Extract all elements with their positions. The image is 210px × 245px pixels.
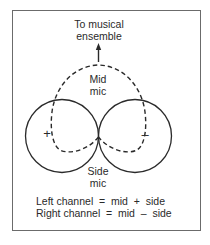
ensemble-label-line1: To musical bbox=[66, 18, 132, 30]
mid-mic-label: Mid mic bbox=[78, 73, 118, 97]
mid-mic-label-line2: mic bbox=[78, 85, 118, 97]
plus-sign: + bbox=[40, 128, 54, 140]
ensemble-label-line2: ensemble bbox=[66, 30, 132, 42]
mid-mic-label-line1: Mid bbox=[78, 73, 118, 85]
arrow-up-icon bbox=[96, 43, 101, 62]
side-mic-label-line2: mic bbox=[78, 177, 118, 189]
side-mic-label: Side mic bbox=[78, 165, 118, 189]
left-channel-equation: Left channel = mid + side bbox=[36, 195, 165, 207]
right-channel-equation: Right channel = mid – side bbox=[36, 207, 172, 219]
ensemble-label: To musical ensemble bbox=[66, 18, 132, 42]
minus-sign: – bbox=[138, 129, 152, 141]
side-mic-label-line1: Side bbox=[78, 165, 118, 177]
